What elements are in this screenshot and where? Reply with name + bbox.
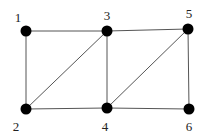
labels-group: 123456 (13, 6, 193, 134)
node-5 (183, 24, 194, 35)
node-label-3: 3 (104, 8, 111, 23)
edge-5-6 (188, 29, 189, 109)
node-label-4: 4 (102, 119, 109, 134)
edges-group (26, 29, 189, 109)
node-label-1: 1 (15, 10, 22, 25)
edge-3-5 (107, 29, 188, 31)
node-4 (102, 103, 113, 114)
edge-4-6 (107, 108, 189, 109)
node-1 (21, 26, 32, 37)
node-label-2: 2 (13, 119, 20, 134)
edge-2-4 (26, 108, 107, 109)
node-3 (102, 26, 113, 37)
node-label-5: 5 (186, 6, 193, 21)
node-6 (184, 104, 195, 115)
edge-4-5 (107, 29, 188, 108)
node-label-6: 6 (186, 119, 193, 134)
graph-diagram: 123456 (0, 0, 203, 135)
edge-2-3 (26, 31, 107, 109)
node-2 (21, 104, 32, 115)
